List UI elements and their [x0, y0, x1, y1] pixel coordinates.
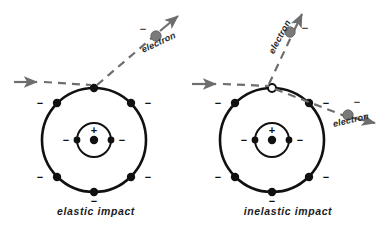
- outer-electron-elastic: [53, 99, 61, 107]
- charge-sign-minus: −: [37, 171, 43, 183]
- physics-diagram: + − − − − − − −: [0, 0, 384, 236]
- charge-sign-minus: −: [63, 134, 69, 146]
- nucleus-charge-inelastic: +: [269, 124, 275, 136]
- impact-point-elastic: [90, 84, 98, 92]
- inner-electron-inelastic: [252, 137, 259, 144]
- charge-sign-minus: −: [140, 23, 146, 35]
- caption-inelastic-impact: inelastic impact: [192, 205, 384, 217]
- inner-electron-elastic: [108, 137, 115, 144]
- outer-electron-elastic: [53, 173, 61, 181]
- incoming-trajectory-inelastic: [223, 84, 269, 86]
- diagram-canvas: + − − − − − − −: [0, 0, 384, 236]
- panel-inelastic: + − − − − − − −: [192, 14, 375, 207]
- charge-sign-minus: −: [145, 171, 151, 183]
- charge-sign-minus: −: [119, 134, 125, 146]
- incoming-trajectory-elastic: [44, 82, 91, 85]
- scattered-trajectory-arrow-elastic: [160, 16, 178, 31]
- outer-electron-elastic: [127, 99, 135, 107]
- outer-electron-elastic: [127, 173, 135, 181]
- charge-sign-minus: −: [215, 97, 221, 109]
- charge-sign-minus: −: [323, 97, 329, 109]
- outer-electron-inelastic: [231, 99, 239, 107]
- charge-sign-minus: −: [241, 134, 247, 146]
- inner-electron-elastic: [74, 137, 81, 144]
- charge-sign-minus: −: [145, 97, 151, 109]
- outer-electron-inelastic: [231, 173, 239, 181]
- charge-sign-minus: −: [37, 97, 43, 109]
- nucleus-charge-elastic: +: [91, 124, 97, 136]
- nucleus-inelastic: [268, 136, 276, 144]
- charge-sign-minus: −: [323, 171, 329, 183]
- charge-sign-minus: −: [215, 171, 221, 183]
- outer-electron-inelastic: [305, 173, 313, 181]
- caption-elastic-impact: elastic impact: [0, 205, 192, 217]
- impact-point-vacancy-inelastic: [268, 84, 276, 92]
- charge-sign-minus: −: [297, 134, 303, 146]
- inner-electron-inelastic: [286, 137, 293, 144]
- nucleus-elastic: [90, 136, 98, 144]
- charge-sign-minus: −: [302, 22, 308, 34]
- charge-sign-minus: −: [354, 96, 360, 108]
